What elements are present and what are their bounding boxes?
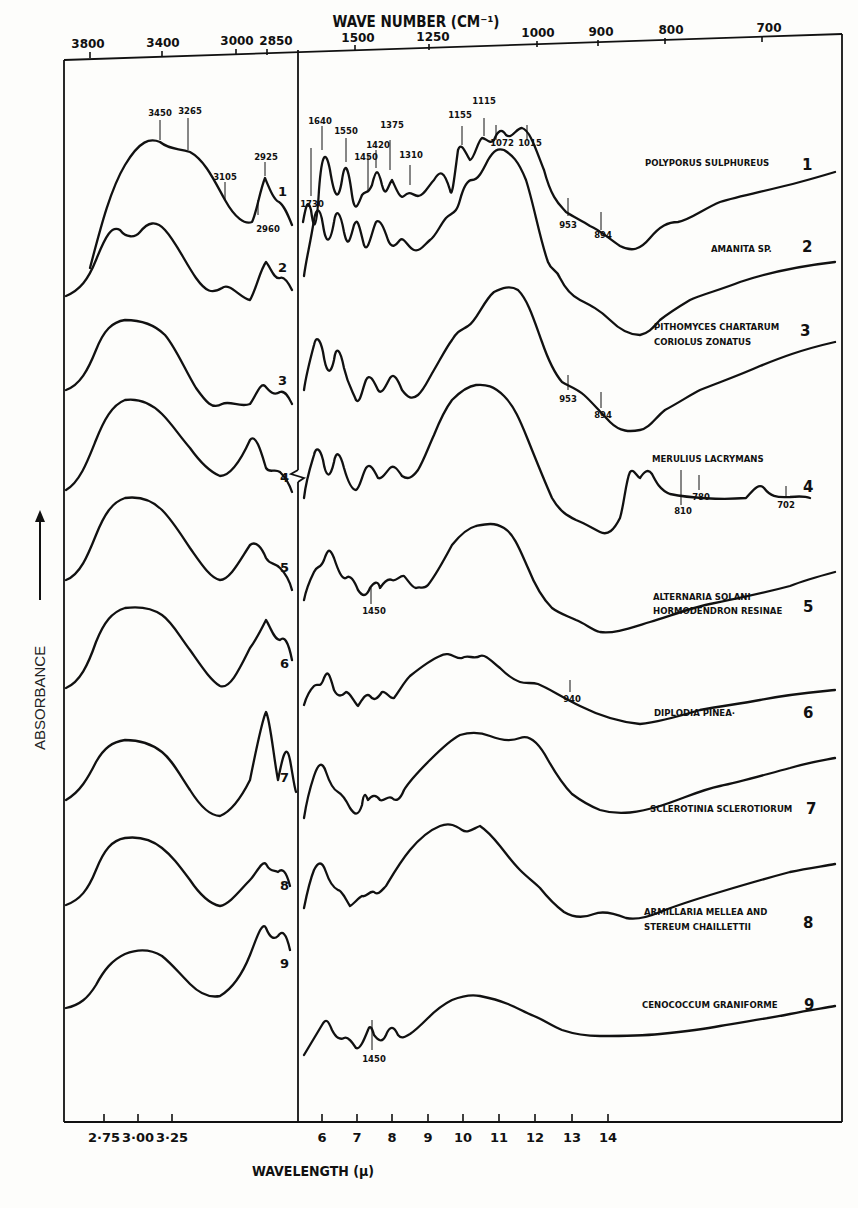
top-tick-label: 3000 xyxy=(220,34,253,48)
legend-number-4: 4 xyxy=(803,478,813,496)
legend-label-4: MERULIUS LACRYMANS xyxy=(652,453,764,464)
legend-label-8b: STEREUM CHAILLETTII xyxy=(644,921,751,932)
top-tick-label: 1250 xyxy=(416,30,449,44)
bottom-tick-label: 6 xyxy=(317,1130,326,1145)
bottom-tick-label: 12 xyxy=(526,1130,544,1145)
peak-label: 810 xyxy=(674,506,692,516)
top-tick-label: 1500 xyxy=(341,31,374,45)
bottom-tick-label: 14 xyxy=(599,1130,617,1145)
peak-label: 1450 xyxy=(362,1054,386,1064)
legend-label-2: AMANITA SP. xyxy=(711,243,772,254)
legend-label-6: DIPLODIA PINEA· xyxy=(654,707,735,718)
peak-label: 1155 xyxy=(448,110,472,120)
top-tick-label: 800 xyxy=(658,23,683,37)
peak-label: 1375 xyxy=(380,120,404,130)
peak-label: 3450 xyxy=(148,108,172,118)
bottom-axis-title: WAVELENGTH (μ) xyxy=(252,1163,374,1179)
curve-number: 8 xyxy=(280,878,289,893)
legend-number-7: 7 xyxy=(806,800,816,818)
peak-label: 780 xyxy=(692,492,710,502)
curve-number: 7 xyxy=(280,770,289,785)
legend-number-3: 3 xyxy=(800,322,810,340)
legend-label-7: SCLEROTINIA SCLEROTIORUM xyxy=(650,803,792,814)
ir-spectra-chart: WAVE NUMBER (CM⁻¹) WAVELENGTH (μ) ABSORB… xyxy=(0,0,858,1208)
y-axis-title: ABSORBANCE xyxy=(31,646,48,750)
curve-number: 9 xyxy=(280,956,289,971)
peak-label: 1310 xyxy=(399,150,423,160)
peak-label: 1115 xyxy=(472,96,496,106)
bottom-tick-label: 3·25 xyxy=(156,1130,188,1145)
legend-number-6: 6 xyxy=(803,704,813,722)
top-tick-label: 3400 xyxy=(146,36,179,50)
legend-number-2: 2 xyxy=(802,238,812,256)
peak-label: 1640 xyxy=(308,116,332,126)
top-tick-label: 3800 xyxy=(71,37,104,51)
curve-number: 3 xyxy=(278,373,287,388)
bottom-tick-label: 3·00 xyxy=(122,1130,154,1145)
peak-label: 1730 xyxy=(300,199,324,209)
legend-label-3b: CORIOLUS ZONATUS xyxy=(654,336,751,347)
peak-label: 953 xyxy=(559,220,577,230)
curve-number: 6 xyxy=(280,656,289,671)
curve-number: 5 xyxy=(280,560,289,575)
legend-label-5a: ALTERNARIA SOLANI xyxy=(653,591,751,602)
bottom-tick-label: 7 xyxy=(352,1130,361,1145)
peak-label: 894 xyxy=(594,410,612,420)
peak-label: 1450 xyxy=(354,152,378,162)
spectrum-8 xyxy=(66,824,835,918)
curve-number: 4 xyxy=(280,470,289,485)
legend-number-1: 1 xyxy=(802,156,812,174)
bottom-tick-label: 9 xyxy=(423,1130,432,1145)
bottom-tick-label: 10 xyxy=(454,1130,472,1145)
peak-label: 1550 xyxy=(334,126,358,136)
top-tick-label: 700 xyxy=(756,21,781,35)
peak-label: 1015 xyxy=(518,138,542,148)
peak-label: 702 xyxy=(777,500,795,510)
y-axis-arrow-icon xyxy=(35,510,45,600)
peak-label: 1450 xyxy=(362,606,386,616)
plot-frame xyxy=(64,34,842,1122)
top-tick-label: 900 xyxy=(588,25,613,39)
legend-number-8: 8 xyxy=(803,914,813,932)
peak-label: 1072 xyxy=(490,138,514,148)
spectrum-3 xyxy=(66,287,835,431)
bottom-axis-ticks: 2·75 3·00 3·25 6 7 8 9 10 11 12 13 14 xyxy=(88,1114,617,1145)
legend-number-5: 5 xyxy=(803,598,813,616)
peak-label: 2925 xyxy=(254,152,278,162)
top-axis-title: WAVE NUMBER (CM⁻¹) xyxy=(333,13,500,31)
bottom-tick-label: 2·75 xyxy=(88,1130,120,1145)
peak-annotations: 3450 3265 3105 2925 2960 1730 1640 1550 … xyxy=(148,96,795,1064)
bottom-tick-label: 11 xyxy=(490,1130,508,1145)
legend-label-1: POLYPORUS SULPHUREUS xyxy=(645,157,769,168)
legend-number-9: 9 xyxy=(804,996,814,1014)
top-tick-label: 1000 xyxy=(521,26,554,40)
legend-label-3a: PITHOMYCES CHARTARUM xyxy=(654,321,779,332)
peak-label: 953 xyxy=(559,394,577,404)
peak-label: 3265 xyxy=(178,106,202,116)
legend-label-9: CENOCOCCUM GRANIFORME xyxy=(642,999,778,1010)
spectrum-9 xyxy=(66,926,835,1055)
bottom-tick-label: 13 xyxy=(563,1130,581,1145)
peak-label: 2960 xyxy=(256,224,280,234)
legend-label-8a: ARMILLARIA MELLEA AND xyxy=(644,906,767,917)
peak-label: 940 xyxy=(563,694,581,704)
top-tick-label: 2850 xyxy=(259,34,292,48)
peak-label: 3105 xyxy=(213,172,237,182)
curve-number: 2 xyxy=(278,260,287,275)
bottom-tick-label: 8 xyxy=(387,1130,396,1145)
curve-number: 1 xyxy=(278,184,287,199)
peak-label: 894 xyxy=(594,230,612,240)
peak-label: 1420 xyxy=(366,140,390,150)
legend-label-5b: HORMODENDRON RESINAE xyxy=(653,605,782,616)
